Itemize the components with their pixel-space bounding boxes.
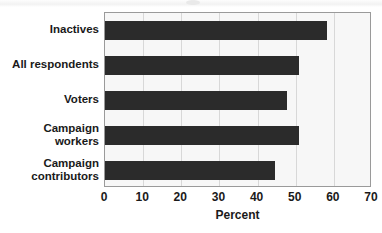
x-axis-tick-label: 50 <box>280 190 310 204</box>
bar-row <box>105 161 372 180</box>
category-label-all-respondents: All respondents <box>0 58 99 71</box>
bar[interactable] <box>105 21 327 40</box>
x-axis-tick-label: 20 <box>165 190 195 204</box>
category-label-text: All respondents <box>12 58 99 70</box>
scan-artifact <box>0 0 382 7</box>
bar[interactable] <box>105 56 299 75</box>
category-label-text: Voters <box>64 93 99 105</box>
bar[interactable] <box>105 161 275 180</box>
category-label-text: Inactives <box>50 23 99 35</box>
category-label-campaign-contributors: Campaign contributors <box>0 157 99 182</box>
bar[interactable] <box>105 126 299 145</box>
bar-row <box>105 56 372 75</box>
category-label-inactives: Inactives <box>0 23 99 36</box>
x-axis-tick-label: 30 <box>203 190 233 204</box>
bar-chart: Inactives All respondents Voters Campaig… <box>0 0 382 233</box>
category-label-voters: Voters <box>0 93 99 106</box>
category-label-campaign-workers: Campaign workers <box>0 122 99 147</box>
plot-area <box>104 12 371 187</box>
bar-row <box>105 21 372 40</box>
x-axis-title: Percent <box>104 208 371 222</box>
x-axis-tick-label: 10 <box>127 190 157 204</box>
x-axis-tick-label: 70 <box>356 190 382 204</box>
bar-row <box>105 91 372 110</box>
x-axis-tick-label: 40 <box>242 190 272 204</box>
bar[interactable] <box>105 91 287 110</box>
category-label-text: Campaign contributors <box>31 157 99 182</box>
bar-row <box>105 126 372 145</box>
category-label-text: Campaign workers <box>43 122 99 147</box>
x-axis-tick-label: 0 <box>89 190 119 204</box>
scan-blob <box>186 0 200 5</box>
x-axis-tick-label: 60 <box>318 190 348 204</box>
